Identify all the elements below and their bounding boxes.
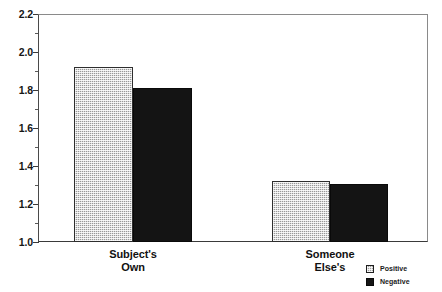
y-axis-tick-label: 1.4 <box>1 161 33 171</box>
legend-item-negative: Negative <box>366 276 440 287</box>
x-axis-category-label-1-line2: Own <box>83 261 183 274</box>
legend: Positive Negative <box>366 263 440 289</box>
y-axis-major-tick <box>33 242 39 243</box>
y-axis-tick-label: 2.2 <box>1 9 33 19</box>
x-axis-category-label-2: Someone Else's <box>280 248 380 273</box>
bar-subjects-own-negative <box>133 88 192 242</box>
bar-someone-elses-positive <box>272 181 330 242</box>
legend-swatch-negative-icon <box>366 278 374 286</box>
y-axis-tick-label: 1.2 <box>1 199 33 209</box>
x-axis-category-label-2-line2: Else's <box>280 261 380 274</box>
legend-swatch-positive-icon <box>366 265 374 273</box>
bar-chart: 2.2 2.0 1.8 1.6 1.4 1.2 1.0 Subject's Ow… <box>0 0 442 292</box>
x-axis-category-label-2-line1: Someone <box>306 248 355 260</box>
y-axis-tick-label: 1.6 <box>1 123 33 133</box>
legend-label-negative: Negative <box>380 278 410 285</box>
x-axis-category-label-1: Subject's Own <box>83 248 183 273</box>
y-axis-tick-label: 1.0 <box>1 237 33 247</box>
legend-label-positive: Positive <box>380 265 407 272</box>
legend-item-positive: Positive <box>366 263 440 274</box>
bar-someone-elses-negative <box>330 184 388 242</box>
y-axis-tick-label: 2.0 <box>1 47 33 57</box>
y-axis: 2.2 2.0 1.8 1.6 1.4 1.2 1.0 <box>0 0 33 292</box>
x-axis-category-label-1-line1: Subject's <box>109 248 157 260</box>
y-axis-tick-label: 1.8 <box>1 85 33 95</box>
bar-subjects-own-positive <box>74 67 133 242</box>
